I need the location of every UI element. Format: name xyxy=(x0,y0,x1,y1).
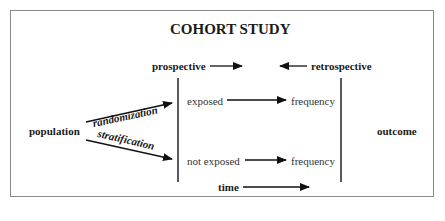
randomization-arrow-icon xyxy=(86,103,172,122)
stratification-arrow-icon xyxy=(86,140,172,159)
diagram-arrows xyxy=(0,0,445,221)
